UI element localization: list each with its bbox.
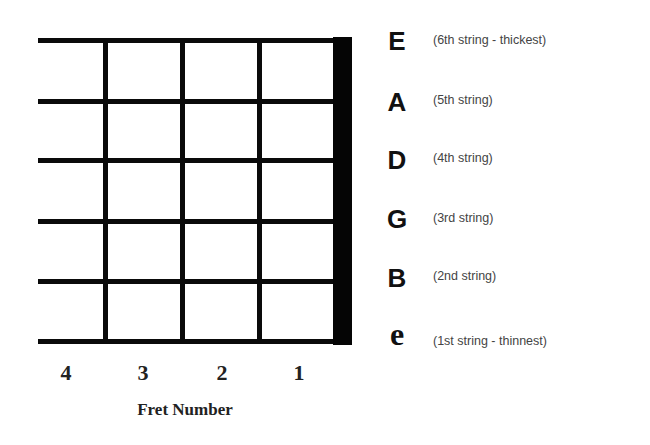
string-letter-5: A <box>380 87 414 117</box>
fret-line-2-3 <box>180 39 185 344</box>
string-desc-1: (1st string - thinnest) <box>433 333 547 349</box>
fretboard-diagram <box>0 0 370 350</box>
string-letter-6: E <box>380 26 414 56</box>
string-desc-3: (3rd string) <box>433 210 493 226</box>
fret-number-2: 2 <box>207 360 237 386</box>
fret-line-1-2 <box>257 39 262 344</box>
nut <box>333 37 352 345</box>
string-letter-1: e <box>380 319 414 349</box>
fret-number-4: 4 <box>51 360 81 386</box>
string-desc-5: (5th string) <box>433 92 493 108</box>
fret-number-caption: Fret Number <box>137 400 233 420</box>
fret-number-1: 1 <box>284 360 314 386</box>
string-desc-4: (4th string) <box>433 150 493 166</box>
string-line-2 <box>38 279 338 284</box>
string-letter-3: G <box>380 204 414 234</box>
string-letter-4: D <box>380 145 414 175</box>
string-line-3 <box>38 219 338 224</box>
string-letter-2: B <box>380 263 414 293</box>
string-line-1 <box>38 339 338 344</box>
string-line-5 <box>38 99 338 104</box>
string-line-4 <box>38 158 338 163</box>
string-desc-2: (2nd string) <box>433 268 496 284</box>
string-line-6 <box>38 38 338 43</box>
string-desc-6: (6th string - thickest) <box>433 32 546 48</box>
fret-line-3-4 <box>103 39 108 344</box>
fret-number-3: 3 <box>128 360 158 386</box>
